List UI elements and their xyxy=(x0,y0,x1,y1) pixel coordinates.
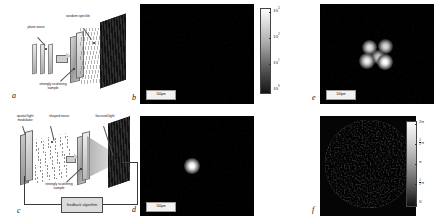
label-random-speckle: random speckle xyxy=(64,14,92,18)
figure-root: plane wave random speckle strongly scatt… xyxy=(0,0,444,224)
colorbar-phase-tick-pi xyxy=(415,164,417,165)
feedback-wire-left-vertical xyxy=(24,176,25,205)
feedback-wire-from-screen xyxy=(122,162,138,163)
colorbar-phase-group: 2π 3 2 π π 1 2 π 0 xyxy=(406,116,444,216)
panel-e-image: 100µm xyxy=(320,4,434,104)
scalebar-label-b: 100µm xyxy=(156,93,165,96)
colorbar-label-1e2: 102 xyxy=(273,33,280,39)
shaped-wave-bundle xyxy=(34,132,70,184)
wavefront-plate-3 xyxy=(48,43,53,74)
label-spatial-light-modulator: spatial light modulator xyxy=(9,114,41,122)
feedback-wire-bottom-left xyxy=(24,204,62,205)
colorbar-label-1e0: 100 xyxy=(273,85,280,91)
colorbar-label-1e1: 101 xyxy=(273,59,280,65)
scalebar-label-e: 100µm xyxy=(336,93,345,96)
panel-a-schematic: plane wave random speckle strongly scatt… xyxy=(4,4,126,104)
label-focused-light: focused light xyxy=(93,114,117,118)
frac-one-half-pi: π xyxy=(422,180,425,185)
colorbar-tick-1 xyxy=(269,64,271,65)
focus-spot-e-5 xyxy=(377,54,393,70)
colorbar-intensity-group: 103 102 101 100 xyxy=(260,4,312,104)
panel-c-schematic: feedback algorithm spatial light modulat… xyxy=(4,106,142,220)
panel-d-image: 100µm xyxy=(140,116,254,216)
leader-line-slm xyxy=(23,126,26,134)
colorbar-phase-tick-halfpi xyxy=(415,184,417,185)
colorbar-phase-label-halfpi: 1 2 π xyxy=(419,179,424,187)
colorbar-tick-2 xyxy=(269,38,271,39)
phase-noise-texture xyxy=(325,120,413,208)
leader-dot-random-speckle xyxy=(93,42,95,44)
wavefront-plate-1 xyxy=(32,43,37,74)
panel-letter-a: a xyxy=(12,92,16,100)
colorbar-exp-1e2: 2 xyxy=(278,32,280,36)
colorbar-exp-1e0: 0 xyxy=(278,84,280,88)
leader-dot-shaped-wave xyxy=(51,141,53,143)
slm-aperture-disc xyxy=(325,120,413,208)
spatial-light-modulator-face xyxy=(25,130,33,182)
panel-letter-c: c xyxy=(17,207,21,215)
feedback-algorithm-box: feedback algorithm xyxy=(61,197,103,213)
panel-letter-d: d xyxy=(132,206,136,214)
focus-spot-d xyxy=(184,158,200,174)
colorbar-phase-tick-2pi xyxy=(415,124,417,125)
colorbar-tick-0 xyxy=(269,90,271,91)
panel-letter-e: e xyxy=(312,94,316,102)
colorbar-tick-3 xyxy=(269,12,271,13)
panel-f-phasemap xyxy=(320,116,416,216)
scalebar-d: 100µm xyxy=(146,202,176,212)
speckle-texture-b xyxy=(140,4,254,104)
feedback-algorithm-label: feedback algorithm xyxy=(67,203,97,207)
scalebar-e: 100µm xyxy=(326,90,356,100)
feedback-wire-right-vertical xyxy=(137,162,138,205)
colorbar-exp-1e3: 3 xyxy=(278,6,280,10)
colorbar-phase-label-2pi: 2π xyxy=(419,119,424,124)
panel-b-image: 100µm xyxy=(140,4,254,104)
colorbar-exp-1e1: 1 xyxy=(278,58,280,62)
colorbar-phase-label-0: 0 xyxy=(419,199,422,204)
colorbar-phase-label-3halfpi: 3 2 π xyxy=(419,139,424,147)
colorbar-label-1e3: 103 xyxy=(273,7,280,13)
observation-screen-a xyxy=(100,14,126,89)
label-scattering-sample-a: strongly scattering sample xyxy=(38,82,68,90)
scalebar-label-d: 100µm xyxy=(156,205,165,208)
leader-dot-plane-wave xyxy=(45,48,47,50)
leader-dot-focused-light xyxy=(116,155,118,157)
frac-three-halves-pi: π xyxy=(422,140,425,145)
panel-letter-b: b xyxy=(132,94,136,102)
colorbar-intensity xyxy=(260,8,271,94)
panel-letter-f: f xyxy=(312,206,314,214)
label-scattering-sample-c: strongly scattering sample xyxy=(44,182,74,190)
colorbar-phase-label-pi: π xyxy=(419,159,422,164)
colorbar-phase-tick-3halfpi xyxy=(415,144,417,145)
label-shaped-wave: shaped wave xyxy=(47,114,71,118)
colorbar-phase-tick-0 xyxy=(415,204,417,205)
label-plane-wave: plane wave xyxy=(24,25,48,29)
scalebar-b: 100µm xyxy=(146,90,176,100)
focus-spot-e-4 xyxy=(359,53,375,69)
